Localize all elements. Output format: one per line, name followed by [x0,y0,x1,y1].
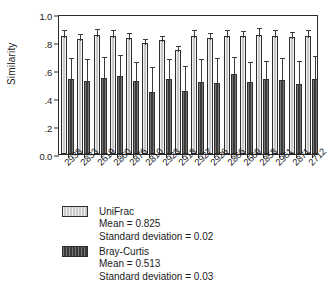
legend-sd-text: Standard deviation = 0.03 [99,270,312,283]
error-bar-cap [111,30,116,31]
bar-group [61,16,75,154]
bar-unifrac[interactable] [191,36,197,154]
bar-bray-curtis[interactable] [214,83,220,154]
bar-group [175,16,189,154]
bar-unifrac[interactable] [61,36,67,154]
error-bar-whisker [129,33,130,40]
error-bar-cap [78,34,83,35]
bar-group [207,16,221,154]
bar-bray-curtis[interactable] [231,74,237,154]
bar-group [126,16,140,154]
bar-unifrac[interactable] [224,36,230,154]
bar-unifrac[interactable] [207,38,213,154]
bar-group [94,16,108,154]
error-bar-whisker [275,30,276,38]
bar-group [289,16,303,154]
error-bar-whisker [308,30,309,38]
similarity-bar-chart-figure: Similarity 1.0.8.6.4.20.0 UniFracMean = … [0,0,336,289]
bar-unifrac[interactable] [289,37,295,154]
bar-unifrac[interactable] [126,38,132,154]
y-axis-tick-label: .4 [44,95,52,106]
legend-series-label: Bray-Curtis [99,246,149,257]
error-bar-cap [241,31,246,32]
error-bar-cap [127,33,132,34]
error-bar-cap [264,61,269,62]
bar-bray-curtis[interactable] [68,79,74,154]
bar-bray-curtis[interactable] [117,76,123,154]
error-bar-cap [248,62,253,63]
bar-unifrac[interactable] [240,36,246,154]
error-bar-whisker [243,31,244,39]
chart-legend: UniFracMean = 0.825Standard deviation = … [62,206,312,286]
error-bar-cap [102,57,107,58]
y-axis-tick [54,16,59,17]
error-bar-whisker [136,62,137,83]
legend-entry[interactable]: UniFracMean = 0.825Standard deviation = … [62,206,312,243]
bar-unifrac[interactable] [110,36,116,154]
error-bar-cap [85,59,90,60]
bar-bray-curtis[interactable] [296,84,302,154]
error-bar-whisker [227,30,228,38]
bar-bray-curtis[interactable] [312,79,318,154]
bar-unifrac[interactable] [305,36,311,154]
bar-unifrac[interactable] [256,35,262,154]
bar-bray-curtis[interactable] [263,79,269,154]
y-axis-tick-label: 1.0 [39,11,52,22]
error-bar-cap [167,59,172,60]
bar-bray-curtis[interactable] [247,82,253,154]
error-bar-cap [134,62,139,63]
bar-group [224,16,238,154]
legend-sd-text: Standard deviation = 0.02 [99,230,312,243]
error-bar-whisker [194,30,195,38]
bar-bray-curtis[interactable] [279,80,285,154]
legend-entry[interactable]: Bray-CurtisMean = 0.513Standard deviatio… [62,246,312,283]
bar-unifrac[interactable] [142,43,148,154]
y-axis-tick [54,72,59,73]
error-bar-whisker [113,30,114,38]
bar-group [77,16,91,154]
bar-unifrac[interactable] [159,40,165,154]
error-bar-whisker [299,61,300,86]
legend-entry-header: Bray-Curtis [62,246,312,257]
bar-bray-curtis[interactable] [101,78,107,154]
error-bar-whisker [97,29,98,37]
bar-bray-curtis[interactable] [198,82,204,154]
error-bar-whisker [259,28,260,36]
error-bar-cap [150,67,155,68]
bar-group [272,16,286,154]
bar-bray-curtis[interactable] [166,79,172,154]
error-bar-whisker [250,62,251,84]
bar-group [305,16,319,154]
bar-group [256,16,270,154]
error-bar-whisker [87,59,88,84]
y-axis-tick [54,156,59,157]
error-bar-whisker [104,57,105,80]
bar-bray-curtis[interactable] [182,91,188,154]
error-bar-cap [225,30,230,31]
bar-unifrac[interactable] [94,35,100,154]
bar-group [159,16,173,154]
bar-bray-curtis[interactable] [149,92,155,154]
error-bar-cap [232,57,237,58]
bar-unifrac[interactable] [77,39,83,154]
error-bar-cap [215,58,220,59]
y-axis-tick-label: .2 [44,123,52,134]
error-bar-whisker [210,33,211,40]
error-bar-whisker [266,61,267,81]
legend-swatch-bray-curtis [62,246,88,257]
plot-area: 1.0.8.6.4.20.0 [58,15,318,155]
bar-bray-curtis[interactable] [84,81,90,154]
y-axis-tick-label: .8 [44,39,52,50]
error-bar-cap [62,30,67,31]
error-bar-whisker [80,34,81,41]
error-bar-cap [306,30,311,31]
error-bar-whisker [282,58,283,82]
bar-bray-curtis[interactable] [133,81,139,154]
error-bar-whisker [217,58,218,85]
bar-group [191,16,205,154]
legend-series-label: UniFrac [99,206,134,217]
error-bar-cap [69,58,74,59]
bar-unifrac[interactable] [175,50,181,154]
bar-unifrac[interactable] [272,36,278,154]
error-bar-cap [192,30,197,31]
